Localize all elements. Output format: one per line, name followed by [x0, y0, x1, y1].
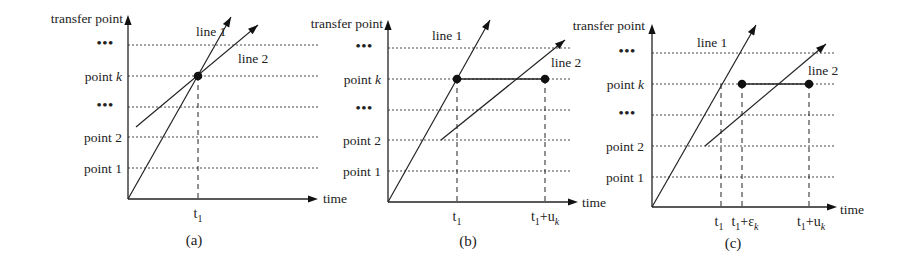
y-axis-arrow-icon	[384, 20, 391, 30]
row-label: point 1	[84, 161, 122, 176]
point-k-marker	[805, 80, 814, 89]
time-tick-label: t1+uk	[531, 209, 560, 227]
time-tick-label: t1	[715, 214, 724, 232]
line-1-label: line 1	[196, 24, 226, 39]
panel-b: •••point k•••point 2point 1transfer poin…	[311, 16, 606, 250]
row-label: point k	[344, 72, 382, 87]
row-label: •••	[356, 100, 373, 115]
time-tick-label: t1	[194, 206, 203, 224]
row-label: point 2	[343, 133, 381, 148]
x-axis-label: time	[840, 202, 864, 217]
line-1-label: line 1	[432, 28, 462, 43]
row-label: •••	[97, 35, 114, 50]
row-label: point k	[607, 77, 645, 92]
transfer-point-diagram: •••point k•••point 2point 1transfer poin…	[0, 0, 906, 273]
row-label: •••	[619, 105, 636, 120]
x-axis-label: time	[323, 191, 347, 206]
x-axis-arrow-icon	[308, 195, 318, 202]
time-tick-label: t1+uk	[797, 214, 826, 232]
row-label: point 1	[343, 164, 381, 179]
row-label: point 1	[606, 170, 644, 185]
y-axis-arrow-icon	[124, 15, 131, 25]
row-label: •••	[356, 38, 373, 53]
panel-a: •••point k•••point 2point 1transfer poin…	[51, 11, 347, 249]
line-2	[705, 44, 826, 146]
y-axis-label: transfer point	[51, 11, 124, 26]
x-axis-arrow-icon	[568, 198, 578, 205]
point-k-marker	[738, 80, 747, 89]
line-1	[388, 20, 490, 202]
panel-caption: (c)	[725, 235, 742, 252]
line-1	[128, 17, 231, 199]
y-axis-label: transfer point	[311, 16, 384, 31]
x-axis-arrow-icon	[827, 203, 837, 210]
y-axis-label: transfer point	[573, 18, 646, 33]
line-1-label: line 1	[697, 35, 727, 50]
line-1-arrow-icon	[748, 25, 756, 35]
panel-caption: (a)	[186, 232, 203, 249]
panels-container: •••point k•••point 2point 1transfer poin…	[51, 11, 864, 252]
point-k-marker	[194, 72, 203, 81]
time-tick-label: t1+εk	[731, 214, 759, 232]
y-axis-arrow-icon	[648, 24, 655, 34]
row-label: point k	[85, 69, 123, 84]
time-tick-label: t1	[453, 209, 462, 227]
point-k-marker	[453, 75, 462, 84]
row-label: point 2	[84, 130, 122, 145]
row-label: •••	[619, 43, 636, 58]
x-axis-label: time	[582, 195, 606, 210]
line-1-arrow-icon	[482, 20, 490, 30]
row-label: •••	[97, 97, 114, 112]
line-2-label: line 2	[808, 63, 838, 78]
row-label: point 2	[606, 139, 644, 154]
line-2	[441, 40, 565, 140]
panel-c: •••point k•••point 2point 1transfer poin…	[573, 18, 864, 252]
line-2-label: line 2	[238, 51, 268, 66]
line-2-label: line 2	[551, 55, 581, 70]
point-k-marker	[541, 75, 550, 84]
panel-caption: (b)	[459, 233, 477, 250]
